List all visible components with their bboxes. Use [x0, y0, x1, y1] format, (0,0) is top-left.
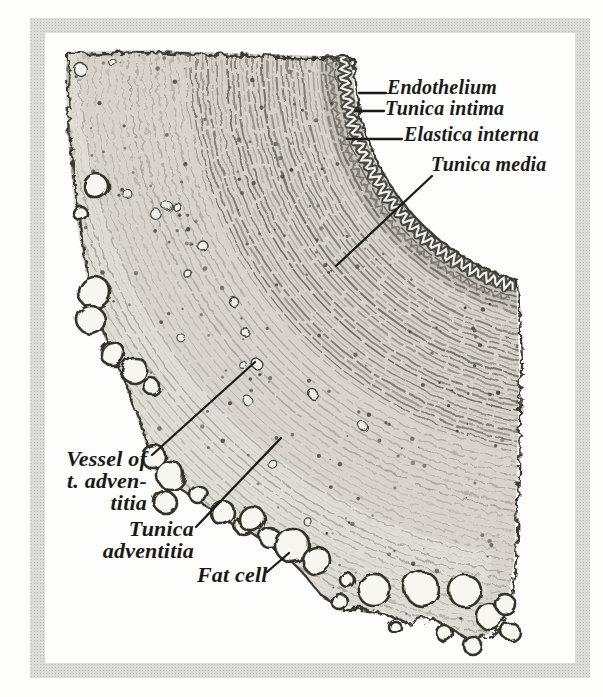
tissue-interior [0, 0, 603, 697]
label-endothelium: Endothelium [387, 77, 497, 98]
label-tunica-adventitia-line2: adventitia [56, 540, 194, 562]
label-vessel-line1: Vessel of [37, 448, 147, 470]
label-tunica-media: Tunica media [431, 154, 547, 175]
label-elastica-interna: Elastica interna [404, 124, 539, 145]
label-tunica-intima: Tunica intima [385, 98, 504, 119]
artery-histology-illustration [0, 0, 603, 697]
label-tunica-adventitia-line1: Tunica [56, 518, 194, 540]
page: { "figure": { "type": "histology-labeled… [0, 0, 603, 697]
label-tunica-adventitia: Tunica adventitia [56, 518, 194, 562]
label-vessel-line3: titia [37, 492, 147, 514]
label-fat-cell: Fat cell [197, 564, 268, 586]
label-vessel-line2: t. adven- [37, 470, 147, 492]
label-vessel-of-t-adventitia: Vessel of t. adven- titia [37, 448, 147, 514]
